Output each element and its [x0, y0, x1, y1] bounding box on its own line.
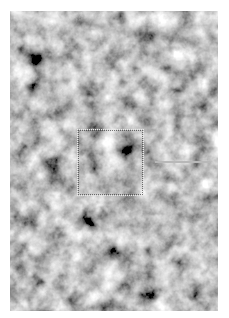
- selection-marquee[interactable]: [77, 129, 144, 196]
- guide-line: [155, 161, 210, 163]
- noise-image: [10, 11, 218, 311]
